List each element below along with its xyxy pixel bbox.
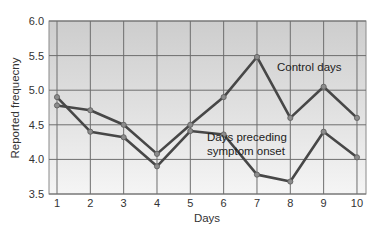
- x-tick-label: 3: [121, 197, 127, 209]
- data-point-marker: [221, 95, 226, 100]
- plot-area: [49, 21, 366, 194]
- data-point-marker: [188, 122, 193, 127]
- data-point-marker: [288, 115, 293, 120]
- x-tick-label: 1: [54, 197, 60, 209]
- x-tick-label: 5: [187, 197, 193, 209]
- y-tick-label: 4.0: [29, 153, 44, 165]
- data-point-marker: [121, 122, 126, 127]
- y-tick-label: 4.5: [29, 119, 44, 131]
- data-point-marker: [254, 172, 259, 177]
- data-point-marker: [188, 128, 193, 133]
- x-axis-label: Days: [194, 212, 220, 224]
- data-point-marker: [321, 129, 326, 134]
- x-tick-label: 2: [87, 197, 93, 209]
- annotation-label: symptom onset: [207, 145, 286, 157]
- data-point-marker: [54, 95, 59, 100]
- y-tick-label: 6.0: [29, 15, 44, 27]
- data-point-marker: [121, 135, 126, 140]
- x-tick-label: 10: [351, 197, 363, 209]
- x-tick-label: 7: [254, 197, 260, 209]
- data-point-marker: [54, 103, 59, 108]
- data-point-marker: [154, 151, 159, 156]
- x-tick-label: 6: [221, 197, 227, 209]
- data-point-marker: [88, 108, 93, 113]
- data-point-marker: [354, 155, 359, 160]
- data-point-marker: [254, 54, 259, 59]
- y-axis-ticks: 3.54.04.55.05.56.0: [29, 15, 44, 200]
- data-point-marker: [354, 115, 359, 120]
- data-point-marker: [321, 84, 326, 89]
- x-tick-label: 8: [287, 197, 293, 209]
- x-tick-label: 9: [321, 197, 327, 209]
- x-tick-label: 4: [154, 197, 160, 209]
- y-axis-label: Reported frequecny: [9, 57, 21, 158]
- annotation-label: Control days: [277, 61, 342, 73]
- y-tick-label: 5.0: [29, 84, 44, 96]
- y-tick-label: 3.5: [29, 188, 44, 200]
- data-point-marker: [154, 164, 159, 169]
- data-point-marker: [288, 179, 293, 184]
- annotation-label: Days preceding: [207, 131, 287, 143]
- line-chart: 3.54.04.55.05.56.0 12345678910 Control d…: [0, 0, 380, 236]
- data-point-marker: [88, 129, 93, 134]
- x-axis-ticks: 12345678910: [54, 197, 363, 209]
- y-tick-label: 5.5: [29, 50, 44, 62]
